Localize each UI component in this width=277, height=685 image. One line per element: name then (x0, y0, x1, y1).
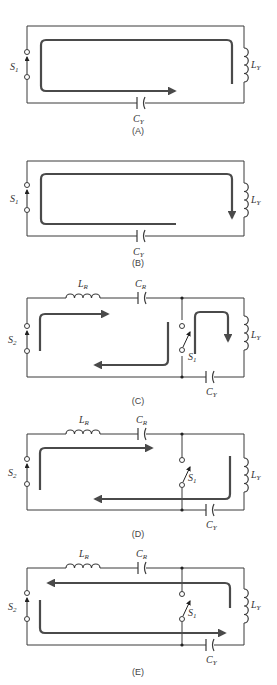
capacitor-plate-icon (145, 562, 147, 574)
current-flow-arrow (95, 456, 230, 499)
inductor-r-label: LR (78, 414, 90, 427)
junction-dot (180, 375, 183, 378)
switch2-label: S2 (8, 334, 17, 347)
capacitor-r-label: CR (136, 414, 148, 427)
capacitor-plate-icon (144, 230, 146, 242)
panel-b: S1 LY CY (B) (10, 161, 262, 268)
current-flow-arrow (41, 40, 232, 91)
inductor-label: LY (250, 194, 262, 207)
inductor-coil-icon (244, 458, 248, 492)
current-flow-arrow (40, 600, 225, 633)
inductor-y-label: LY (250, 469, 262, 482)
inductor-r-label: LR (77, 278, 89, 291)
capacitor-plate-icon (213, 504, 215, 516)
switch-terminal (25, 183, 30, 188)
capacitor-plate-icon (145, 292, 147, 304)
switch-terminal (25, 324, 30, 329)
capacitor-y-label: CY (206, 654, 218, 667)
capacitor-label: CY (133, 113, 145, 126)
capacitor-plate-icon (144, 97, 146, 109)
inductor-label: LY (250, 59, 262, 72)
capacitor-y-label: CY (206, 386, 218, 399)
junction-dot (180, 508, 183, 511)
switch-terminal (25, 349, 30, 354)
inductor-coil-icon (244, 48, 248, 82)
switch1-label: S1 (188, 472, 197, 485)
current-flow-arrow (48, 583, 230, 608)
capacitor-r-label: CR (135, 278, 147, 291)
switch-terminal (180, 592, 185, 597)
switch-terminal (25, 457, 30, 462)
switch-terminal (25, 50, 30, 55)
switch-terminal (25, 591, 30, 596)
capacitor-y-label: CY (206, 519, 218, 532)
panel-e: S2 LR CR S1 LY CY (E) (8, 548, 262, 677)
inductor-coil-icon (66, 564, 100, 568)
panel-caption: (D) (132, 529, 145, 539)
switch-terminal (25, 75, 30, 80)
junction-dot (180, 566, 183, 569)
panel-caption: (B) (132, 258, 144, 268)
junction-dot (180, 296, 183, 299)
switch-label: S1 (10, 193, 19, 206)
switch-blade-icon (183, 332, 190, 347)
switch-terminal (180, 617, 185, 622)
switch1-label: S1 (188, 607, 197, 620)
current-flow-arrow (95, 322, 168, 365)
inductor-r-label: LR (78, 548, 90, 561)
current-flow-arrow (40, 314, 108, 351)
junction-dot (180, 643, 183, 646)
capacitor-plate-icon (213, 639, 215, 651)
current-flow-arrow (40, 448, 152, 490)
current-flow-arrow (195, 312, 228, 354)
inductor-coil-icon (244, 589, 248, 623)
switch-terminal (180, 348, 185, 353)
panel-caption: (E) (132, 667, 144, 677)
inductor-y-label: LY (250, 329, 262, 342)
inductor-y-label: LY (250, 599, 262, 612)
panel-c: S2 LR CR S1 LY CY (C) (8, 278, 262, 406)
switch2-label: S2 (8, 467, 17, 480)
panel-caption: (A) (132, 126, 144, 136)
panel-a: S1 LY CY (A) (10, 26, 262, 136)
switch-label: S1 (10, 61, 19, 74)
capacitor-plate-icon (145, 428, 147, 440)
switch-terminal (25, 208, 30, 213)
switch-terminal (180, 483, 185, 488)
inductor-coil-icon (66, 294, 100, 298)
junction-dot (180, 432, 183, 435)
inductor-coil-icon (244, 316, 248, 350)
switch-terminal (25, 617, 30, 622)
panel-d: S2 LR CR S1 LY CY (D) (8, 414, 262, 539)
inductor-coil-icon (66, 430, 100, 434)
switch-terminal (180, 324, 185, 329)
switch-terminal (25, 482, 30, 487)
panel-caption: (C) (132, 396, 145, 406)
current-flow-arrow (41, 174, 232, 224)
circuit-figure: S1 LY CY (A) S1 LY CY (B) S2 (0, 0, 277, 685)
switch-terminal (180, 458, 185, 463)
inductor-coil-icon (244, 183, 248, 217)
capacitor-r-label: CR (136, 548, 148, 561)
switch2-label: S2 (8, 601, 17, 614)
capacitor-plate-icon (213, 371, 215, 383)
